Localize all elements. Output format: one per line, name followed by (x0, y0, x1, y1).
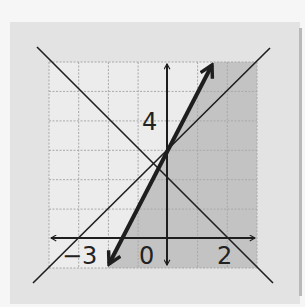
x-label-2: 2 (217, 242, 232, 270)
y-label-4: 4 (142, 108, 157, 136)
x-label-neg-3: −3 (62, 242, 97, 270)
coordinate-graph: 4 −3 0 2 (0, 0, 305, 307)
x-label-0: 0 (139, 242, 154, 270)
